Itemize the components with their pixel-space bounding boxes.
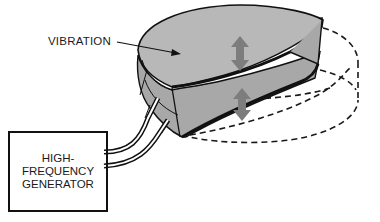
generator-label-line-3: GENERATOR <box>10 178 106 191</box>
generator-label-line-1: HIGH- <box>10 152 106 165</box>
generator-label-line-2: FREQUENCY <box>10 165 106 178</box>
high-frequency-generator-box: HIGH- FREQUENCY GENERATOR <box>8 131 108 212</box>
vibration-label: VIBRATION <box>48 35 111 47</box>
vibrating-disk <box>138 5 324 137</box>
generator-label: HIGH- FREQUENCY GENERATOR <box>10 152 106 191</box>
